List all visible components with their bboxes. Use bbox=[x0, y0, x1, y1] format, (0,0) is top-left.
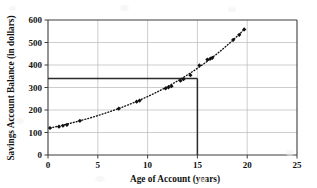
x-axis-title: Age of Account (years) bbox=[130, 174, 220, 185]
gridlines bbox=[48, 20, 297, 155]
ytick-label-500: 500 bbox=[29, 38, 43, 48]
ytick-label-0: 0 bbox=[38, 150, 43, 160]
ytick-label-300: 300 bbox=[29, 83, 43, 93]
ytick-label-400: 400 bbox=[29, 60, 43, 70]
data-point bbox=[57, 125, 61, 129]
xtick-label-0: 0 bbox=[46, 160, 51, 170]
reference-lines bbox=[48, 79, 197, 156]
ytick-label-600: 600 bbox=[29, 15, 43, 25]
savings-account-balance-chart: 0 100 200 300 400 500 600 0 5 10 15 20 2… bbox=[0, 0, 317, 188]
xtick-label-25: 25 bbox=[293, 160, 303, 170]
ytick-label-200: 200 bbox=[29, 105, 43, 115]
x-axis-ticks: 0 5 10 15 20 25 bbox=[46, 155, 302, 170]
data-point bbox=[197, 63, 201, 67]
ytick-label-100: 100 bbox=[29, 128, 43, 138]
xtick-label-15: 15 bbox=[193, 160, 203, 170]
xtick-label-20: 20 bbox=[243, 160, 253, 170]
chart-canvas: 0 100 200 300 400 500 600 0 5 10 15 20 2… bbox=[0, 0, 317, 188]
data-point bbox=[78, 119, 82, 123]
xtick-label-10: 10 bbox=[143, 160, 153, 170]
y-axis-title: Savings Account Balance (in dollars) bbox=[6, 15, 17, 160]
y-axis-ticks: 0 100 200 300 400 500 600 bbox=[29, 15, 49, 160]
xtick-label-5: 5 bbox=[96, 160, 101, 170]
